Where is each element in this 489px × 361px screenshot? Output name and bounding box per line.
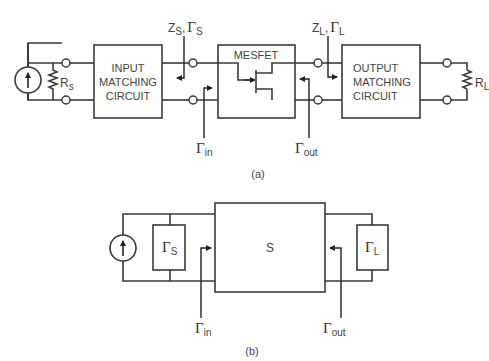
gamma-in-arrow-icon xyxy=(201,248,211,318)
amplifier-diagram: Rs INPUT MATCHING CIRCUIT ZS,ΓS Γin MESF… xyxy=(0,0,489,361)
gamma-out-arrow-icon xyxy=(300,79,309,138)
output-block-label: MATCHING xyxy=(353,76,411,88)
terminal xyxy=(189,59,197,67)
input-block-label: MATCHING xyxy=(99,76,157,88)
output-block-label: CIRCUIT xyxy=(353,90,398,102)
terminal xyxy=(314,59,322,67)
s-block-label: S xyxy=(266,241,274,255)
figure-a-caption: (a) xyxy=(251,168,264,180)
terminal xyxy=(314,96,322,104)
source-impedance-label: ZS,ΓS xyxy=(168,19,203,37)
gamma-out-label: Γout xyxy=(295,140,318,158)
input-block-label: INPUT xyxy=(112,62,145,74)
terminal xyxy=(443,96,451,104)
load-resistor-icon xyxy=(463,70,471,89)
gamma-in-label: Γin xyxy=(196,140,212,158)
load-impedance-label: ZL,ΓL xyxy=(312,19,345,37)
figure-a: Rs INPUT MATCHING CIRCUIT ZS,ΓS Γin MESF… xyxy=(15,19,489,180)
gamma-s-arrow-icon xyxy=(177,36,184,78)
load-resistor-label: RL xyxy=(475,76,489,92)
mesfet-label: MESFET xyxy=(234,49,279,61)
source-resistor-label: Rs xyxy=(60,76,74,92)
terminal xyxy=(443,59,451,67)
gamma-l-arrow-icon xyxy=(328,36,337,77)
source-resistor-icon xyxy=(49,63,57,100)
gamma-out-arrow-icon xyxy=(330,248,341,318)
figure-b-caption: (b) xyxy=(245,345,258,357)
gamma-in-label: Γin xyxy=(195,320,211,338)
input-block-label: CIRCUIT xyxy=(106,90,151,102)
gamma-in-arrow-icon xyxy=(204,88,212,138)
output-block-label: OUTPUT xyxy=(353,62,399,74)
gamma-out-label: Γout xyxy=(323,320,346,338)
current-source-icon xyxy=(110,235,136,261)
figure-b: ΓS Γin S Γout ΓL (b) xyxy=(110,203,388,357)
terminal xyxy=(62,96,70,104)
terminal xyxy=(62,59,70,67)
terminal xyxy=(189,96,197,104)
